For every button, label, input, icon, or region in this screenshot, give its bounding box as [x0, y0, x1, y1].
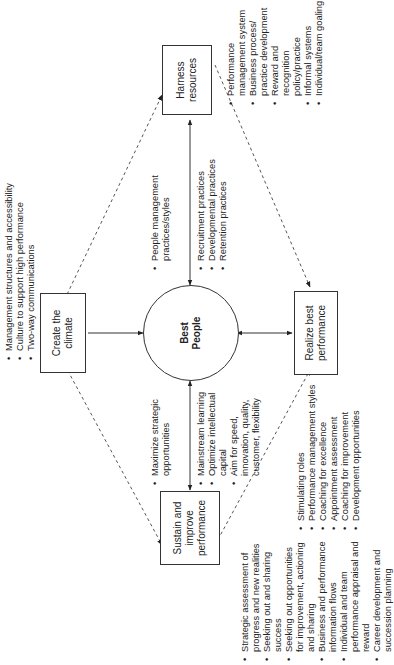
list-item: Mainstream learning [196, 385, 207, 485]
center-sustain-top-labels: Maximize strategic opportunities [150, 385, 172, 485]
list-item: Two-way communications [26, 130, 37, 360]
list-item: Individual and team performance appraisa… [339, 536, 372, 661]
harness-line2: resources [187, 58, 199, 102]
list-item: Informal systems [303, 0, 314, 105]
list-item: Performance management styles [307, 380, 318, 530]
list-item: Retention practices [218, 130, 229, 270]
create-climate-bullets: Management structures and accessibility … [4, 130, 37, 360]
list-item: Strategic assessment of progress and new… [240, 536, 262, 661]
center-sustain-bottom-labels: Mainstream learning Optimize intellectua… [196, 385, 262, 485]
list-item: Business and performance information flo… [317, 536, 339, 661]
list-item: Seeking out and sharing success [262, 536, 284, 661]
realize-line1: Realize best [304, 305, 316, 361]
list-item: Coaching for excellence [318, 380, 329, 530]
create-climate-line1: Create the [51, 310, 63, 357]
harness-resources-box: Harnessresources [162, 45, 212, 115]
list-item: Business process/ practice development [248, 0, 270, 105]
center-label-line2: People [191, 317, 203, 350]
list-item: Culture to support high performance [15, 130, 26, 360]
list-item: Stimulating roles [296, 380, 307, 530]
harness-line1: Harness [175, 58, 187, 102]
list-item: Aim for speed, innovation, quality, cust… [229, 385, 262, 485]
sustain-improve-performance-box: Sustain andimproveperformance [160, 491, 220, 565]
best-people-circle: BestPeople [143, 285, 239, 381]
list-item: Development opportunities [351, 380, 362, 530]
list-item: Recruitment practices [196, 130, 207, 270]
realize-best-performance-bullets: Stimulating roles Performance management… [296, 380, 362, 530]
sustain-improve-bullets: Strategic assessment of progress and new… [240, 536, 394, 661]
list-item: Optimize intellectual capital [207, 385, 229, 485]
list-item: Reward and recognition policy/practice [270, 0, 303, 105]
list-item: Career development and succession planni… [372, 536, 394, 661]
realize-best-performance-box: Realize bestperformance [294, 291, 338, 375]
sustain-line2: improve [184, 500, 196, 556]
list-item: Management structures and accessibility [4, 130, 15, 360]
list-item: People management practices/styles [150, 130, 172, 270]
create-climate-line2: climate [63, 310, 75, 357]
center-label-line1: Best [179, 317, 191, 350]
center-harness-bottom-labels: Recruitment practices Developmental prac… [196, 130, 229, 270]
harness-resources-bullets: Performance management system Business p… [226, 0, 325, 105]
list-item: Maximize strategic opportunities [150, 385, 172, 485]
list-item: Individual/team goaling [314, 0, 325, 105]
sustain-line1: Sustain and [172, 500, 184, 556]
list-item: Coaching for improvement [340, 380, 351, 530]
list-item: Developmental practices [207, 130, 218, 270]
list-item: Appointment assessment [329, 380, 340, 530]
create-climate-box: Create theclimate [40, 293, 86, 373]
list-item: Seeking out opportunities for improvemen… [284, 536, 317, 661]
list-item: Performance management system [226, 0, 248, 105]
sustain-line3: performance [196, 500, 208, 556]
realize-line2: performance [316, 305, 328, 361]
center-harness-top-labels: People management practices/styles [150, 130, 172, 270]
